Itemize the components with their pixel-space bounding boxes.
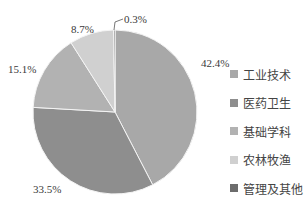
legend-label: 工业技术 xyxy=(243,66,291,83)
legend-swatch xyxy=(230,184,238,192)
legend-swatch xyxy=(230,127,238,135)
legend-swatch xyxy=(230,99,238,107)
slice-label-medicine-health: 33.5% xyxy=(33,183,61,195)
legend-swatch xyxy=(230,156,238,164)
legend-swatch xyxy=(230,70,238,78)
legend-label: 医药卫生 xyxy=(243,94,291,111)
slice-label-management-other: 0.3% xyxy=(124,13,147,25)
legend-label: 基础学科 xyxy=(243,123,291,140)
slice-label-industrial-tech: 42.4% xyxy=(201,57,229,69)
legend-label: 管理及其他 xyxy=(243,180,303,197)
legend-item-agriculture: 农林牧渔 xyxy=(230,146,303,175)
legend-label: 农林牧渔 xyxy=(243,151,291,168)
slice-label-basic-science: 15.1% xyxy=(8,63,36,75)
legend-item-management-other: 管理及其他 xyxy=(230,174,303,203)
slice-label-agriculture: 8.7% xyxy=(71,23,94,35)
legend-item-industrial-tech: 工业技术 xyxy=(230,60,303,89)
legend: 工业技术 医药卫生 基础学科 农林牧渔 管理及其他 xyxy=(230,60,303,203)
leader-line xyxy=(114,19,123,30)
legend-item-basic-science: 基础学科 xyxy=(230,117,303,146)
legend-item-medicine-health: 医药卫生 xyxy=(230,89,303,118)
